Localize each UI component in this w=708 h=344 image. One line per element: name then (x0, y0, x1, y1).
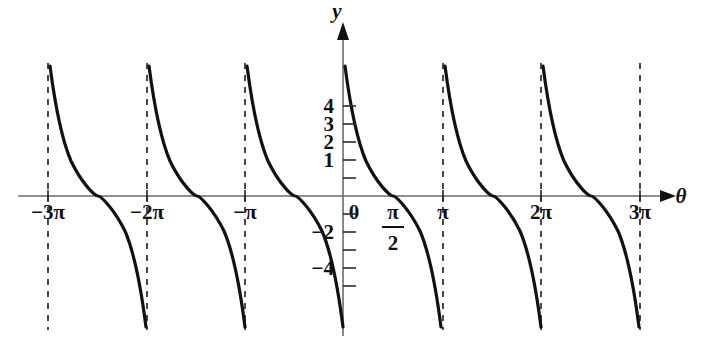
x-tick-label-neg-2pi: −2π (130, 200, 164, 224)
x-tick-label-pi: π (437, 200, 449, 224)
x-tick-label-half-pi: π 2 (382, 200, 404, 255)
cotangent-graph-figure: θ y −3π −2π −π 0 π 2π 3π (0, 0, 708, 344)
half-pi-denominator: 2 (388, 231, 399, 255)
y-axis-label: y (329, 0, 342, 23)
y-tick-label-neg-4: −4 (312, 256, 335, 280)
y-axis-arrowhead (337, 22, 349, 40)
y-tick-label-neg-2: −2 (312, 220, 334, 244)
origin-label: 0 (349, 200, 360, 224)
x-tick-label-3pi: 3π (629, 200, 652, 224)
half-pi-numerator: π (387, 200, 399, 224)
plot-canvas: θ y −3π −2π −π 0 π 2π 3π (0, 0, 708, 344)
x-tick-label-neg-pi: −π (233, 200, 257, 224)
x-tick-label-neg-3pi: −3π (31, 200, 65, 224)
x-tick-label-2pi: 2π (530, 200, 553, 224)
x-axis-label: θ (676, 184, 687, 208)
y-tick-label-1: 1 (324, 148, 335, 172)
x-axis-arrowhead (660, 190, 676, 202)
